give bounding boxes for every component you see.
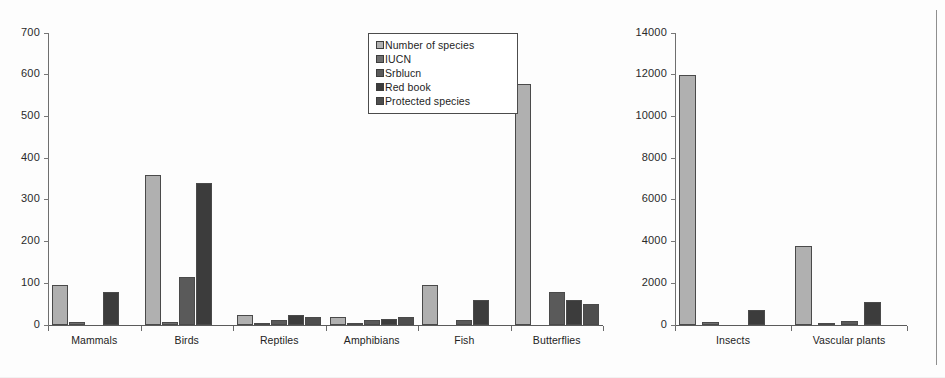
- y-tick-label: 600: [21, 68, 40, 79]
- y-tick-label: 2000: [642, 277, 667, 288]
- category-label: Butterflies: [511, 334, 604, 346]
- left-plot-area: 0100200300400500600700MammalsBirdsReptil…: [48, 33, 603, 325]
- x-tick-mark: [511, 326, 512, 331]
- bar: [364, 320, 380, 325]
- y-tick-label: 200: [21, 235, 40, 246]
- y-tick-mark: [671, 116, 676, 117]
- bar: [549, 292, 565, 325]
- bar: [566, 300, 582, 325]
- bar: [473, 300, 489, 325]
- x-tick-mark: [233, 326, 234, 331]
- y-tick-mark: [44, 158, 49, 159]
- y-tick-label: 100: [21, 277, 40, 288]
- y-tick-label: 10000: [635, 110, 667, 121]
- y-tick-mark: [44, 283, 49, 284]
- legend-label: Protected species: [385, 96, 470, 107]
- bar: [162, 322, 178, 325]
- x-tick-mark: [791, 326, 792, 331]
- bar: [196, 183, 212, 325]
- y-tick-label: 500: [21, 110, 40, 121]
- y-tick-mark: [44, 116, 49, 117]
- legend-label: Number of species: [385, 40, 474, 51]
- bar: [702, 322, 719, 325]
- bar: [288, 315, 304, 325]
- legend-item: Srblucn: [376, 66, 511, 80]
- y-tick-label: 14000: [635, 27, 667, 38]
- x-tick-mark: [603, 326, 604, 331]
- legend-item: Protected species: [376, 94, 511, 108]
- legend-swatch-icon: [376, 55, 384, 63]
- y-tick-label: 300: [21, 193, 40, 204]
- page-edge-rule: [936, 10, 937, 365]
- y-tick-mark: [44, 241, 49, 242]
- legend-swatch-icon: [376, 69, 384, 77]
- bar: [145, 175, 161, 325]
- legend-item: Number of species: [376, 38, 511, 52]
- category-label: Mammals: [48, 334, 141, 346]
- left-chart-panel: 0100200300400500600700MammalsBirdsReptil…: [0, 0, 620, 378]
- legend-swatch-icon: [376, 83, 384, 91]
- bar: [69, 322, 85, 325]
- legend-item: Red book: [376, 80, 511, 94]
- legend-label: Srblucn: [385, 68, 421, 79]
- bar: [330, 317, 346, 325]
- bar: [52, 285, 68, 325]
- bar: [795, 246, 812, 325]
- y-tick-label: 8000: [642, 152, 667, 163]
- x-tick-mark: [418, 326, 419, 331]
- y-tick-mark: [671, 74, 676, 75]
- bar: [583, 304, 599, 325]
- category-label: Reptiles: [233, 334, 326, 346]
- y-tick-mark: [671, 283, 676, 284]
- bar: [179, 277, 195, 325]
- y-tick-mark: [671, 158, 676, 159]
- legend-label: IUCN: [385, 54, 411, 65]
- y-axis-line: [675, 33, 676, 325]
- chart-legend: Number of speciesIUCNSrblucnRed bookProt…: [368, 33, 518, 114]
- y-tick-label: 0: [34, 319, 40, 330]
- legend-swatch-icon: [376, 97, 384, 105]
- x-tick-mark: [48, 326, 49, 331]
- category-label: Amphibians: [326, 334, 419, 346]
- y-tick-label: 12000: [635, 68, 667, 79]
- right-plot-area: 02000400060008000100001200014000InsectsV…: [675, 33, 907, 325]
- category-label: Birds: [141, 334, 234, 346]
- x-tick-mark: [675, 326, 676, 331]
- y-tick-label: 6000: [642, 193, 667, 204]
- bar: [748, 310, 765, 325]
- category-label: Vascular plants: [791, 334, 907, 346]
- bar: [237, 315, 253, 325]
- y-tick-label: 700: [21, 27, 40, 38]
- y-tick-label: 4000: [642, 235, 667, 246]
- y-tick-mark: [44, 33, 49, 34]
- bar: [456, 320, 472, 325]
- legend-label: Red book: [385, 82, 431, 93]
- y-tick-label: 0: [661, 319, 667, 330]
- y-tick-mark: [671, 33, 676, 34]
- bar: [398, 317, 414, 325]
- right-chart-panel: 02000400060008000100001200014000InsectsV…: [620, 0, 945, 378]
- y-tick-mark: [44, 74, 49, 75]
- bar: [381, 319, 397, 325]
- legend-swatch-icon: [376, 41, 384, 49]
- category-label: Fish: [418, 334, 511, 346]
- y-tick-mark: [44, 199, 49, 200]
- legend-item: IUCN: [376, 52, 511, 66]
- y-tick-mark: [671, 241, 676, 242]
- chart-figure: 0100200300400500600700MammalsBirdsReptil…: [0, 0, 945, 378]
- bar: [347, 323, 363, 325]
- bar: [679, 75, 696, 325]
- x-tick-mark: [141, 326, 142, 331]
- bar: [864, 302, 881, 325]
- x-tick-mark: [907, 326, 908, 331]
- bar: [305, 317, 321, 325]
- y-tick-label: 400: [21, 152, 40, 163]
- bar: [818, 323, 835, 325]
- bar: [271, 320, 287, 325]
- y-axis-line: [48, 33, 49, 325]
- x-tick-mark: [326, 326, 327, 331]
- bar: [254, 323, 270, 325]
- bar: [841, 321, 858, 325]
- bar: [422, 285, 438, 325]
- bar: [103, 292, 119, 325]
